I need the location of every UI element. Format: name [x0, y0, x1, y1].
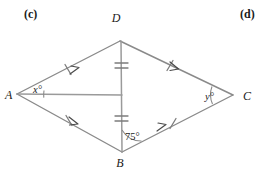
edge-DC-group [120, 41, 233, 95]
angle-label-y: y° [204, 91, 215, 102]
edge-BC-tick-1 [170, 119, 176, 129]
edge-BC-group [122, 95, 233, 152]
edge-BC [122, 95, 233, 152]
diagonal-DB [121, 41, 122, 152]
vertex-label-A: A [4, 88, 13, 102]
edge-AB [17, 94, 122, 152]
edge-AB-group [17, 94, 122, 152]
edge-AD-arrow-1 [70, 66, 79, 74]
angle-label-75: 75° [125, 131, 140, 142]
vertex-label-C: C [243, 89, 252, 103]
vertex-label-D: D [111, 11, 121, 25]
vertex-label-B: B [116, 156, 124, 169]
geometry-figure: D A C B x° y° 75° [0, 0, 265, 169]
angle-label-x: x° [32, 84, 43, 95]
figure-page: (c) (d) [0, 0, 265, 169]
